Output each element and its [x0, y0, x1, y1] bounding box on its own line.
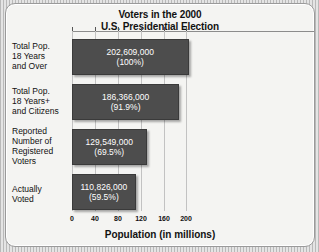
bar-value-label: 202,609,000	[107, 47, 154, 57]
tick-80	[118, 27, 119, 31]
category-line: Total Pop.	[12, 86, 72, 96]
tick-200	[186, 27, 187, 31]
bar-percent-label: (69.5%)	[94, 147, 124, 157]
category-line: 18 Years	[12, 51, 72, 61]
tick-0	[72, 27, 73, 31]
category-label-registered-voters: Reported Number of Registered Voters	[12, 126, 72, 166]
category-line: Total Pop.	[12, 41, 72, 51]
bar-percent-label: (100%)	[117, 57, 144, 67]
category-line: Voters	[12, 156, 72, 166]
chart-panel: Voters in the 2000 U.S. Presidential Ele…	[5, 3, 197, 247]
category-line: 18 Years+	[12, 96, 72, 106]
category-line: and Over	[12, 61, 72, 71]
x-axis-tick-labels: 0 40 80 120 160 200	[72, 211, 187, 225]
tick-120	[141, 27, 142, 31]
bar-percent-label: (59.5%)	[89, 192, 119, 202]
x-tick-label-160: 160	[158, 215, 170, 222]
chart-outer-frame: Voters in the 2000 U.S. Presidential Ele…	[0, 0, 197, 252]
bar-percent-label: (91.9%)	[111, 102, 141, 112]
category-line: Actually	[12, 184, 72, 194]
bar-value-label: 110,826,000	[81, 182, 128, 192]
x-tick-label-200: 200	[180, 215, 192, 222]
category-line: Number of	[12, 136, 72, 146]
tick-160	[164, 27, 165, 31]
category-line: and Citizens	[12, 106, 72, 116]
bar-total-pop-18-and-citizens: 186,366,000 (91.9%)	[72, 84, 179, 120]
chart-title-line-1: Voters in the 2000	[6, 9, 197, 21]
x-axis-title: Population (in millions)	[6, 229, 197, 240]
x-tick-label-0: 0	[70, 215, 74, 222]
category-line: Registered	[12, 146, 72, 156]
x-tick-label-40: 40	[91, 215, 99, 222]
chart-title: Voters in the 2000 U.S. Presidential Ele…	[6, 9, 197, 32]
tick-40	[95, 27, 96, 31]
category-label-total-pop-18-and-citizens: Total Pop. 18 Years+ and Citizens	[12, 86, 72, 116]
category-label-actually-voted: Actually Voted	[12, 184, 72, 204]
bar-value-label: 129,549,000	[86, 137, 133, 147]
category-label-total-pop-18-and-over: Total Pop. 18 Years and Over	[12, 41, 72, 71]
plot-area: 202,609,000 (100%) 186,366,000 (91.9%) 1…	[72, 31, 187, 211]
x-tick-label-120: 120	[135, 215, 147, 222]
category-line: Voted	[12, 194, 72, 204]
category-line: Reported	[12, 126, 72, 136]
bar-total-pop-18-and-over: 202,609,000 (100%)	[72, 39, 189, 75]
x-tick-label-80: 80	[114, 215, 122, 222]
bar-value-label: 186,366,000	[102, 92, 149, 102]
bar-registered-voters: 129,549,000 (69.5%)	[72, 129, 147, 165]
bar-actually-voted: 110,826,000 (59.5%)	[72, 174, 136, 210]
